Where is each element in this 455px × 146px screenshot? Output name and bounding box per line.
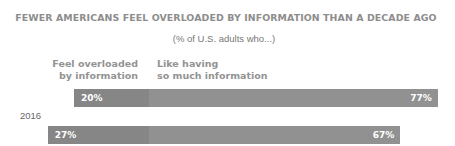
bar-segment-like-having: 67% bbox=[149, 126, 400, 144]
chart-subtitle: (% of U.S. adults who...) bbox=[0, 33, 448, 44]
legend-like-having: Like having so much information bbox=[157, 58, 268, 82]
chart-title: FEWER AMERICANS FEEL OVERLOADED BY INFOR… bbox=[0, 12, 452, 23]
legend-like-line2: so much information bbox=[157, 70, 268, 82]
bar-row-2006: 200627%67% bbox=[0, 126, 455, 146]
bar-segment-overloaded: 20% bbox=[74, 89, 149, 107]
legend-overloaded-line2: by information bbox=[52, 70, 138, 82]
year-label: 2016 bbox=[20, 110, 41, 121]
bar-segment-overloaded: 27% bbox=[48, 126, 149, 144]
legend-overloaded-line1: Feel overloaded bbox=[52, 58, 138, 70]
bar-row-2016: 201620%77% bbox=[0, 89, 455, 109]
legend-overloaded: Feel overloaded by information bbox=[52, 58, 138, 82]
bar-segment-like-having: 77% bbox=[149, 89, 438, 107]
legend-like-line1: Like having bbox=[157, 58, 268, 70]
